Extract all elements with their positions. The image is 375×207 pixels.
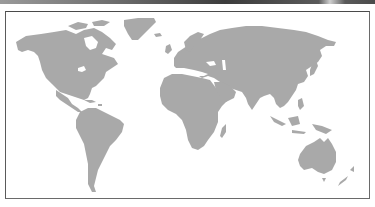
world-map-frame[interactable] <box>5 11 370 199</box>
region-iceland[interactable] <box>154 33 162 37</box>
region-north-america[interactable] <box>16 28 118 100</box>
region-philippines[interactable] <box>298 98 304 110</box>
region-uk[interactable] <box>165 44 172 54</box>
region-new-zealand[interactable] <box>338 166 354 186</box>
world-map[interactable] <box>6 12 369 198</box>
region-madagascar[interactable] <box>220 124 226 138</box>
region-south-america[interactable] <box>76 108 124 192</box>
toolbar-strip <box>0 0 375 4</box>
region-australia[interactable] <box>298 138 336 174</box>
region-new-guinea[interactable] <box>312 124 332 134</box>
region-caribbean[interactable] <box>84 100 102 106</box>
region-arctic-islands[interactable] <box>68 20 110 30</box>
region-greenland[interactable] <box>124 18 156 40</box>
region-indonesia[interactable] <box>270 116 306 134</box>
region-tasmania[interactable] <box>322 178 326 182</box>
